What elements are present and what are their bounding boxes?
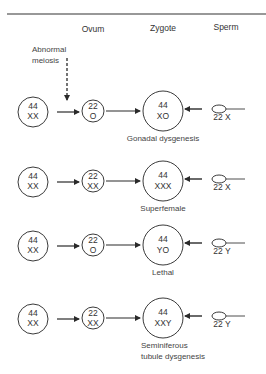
- cross-row: 44XX22XX44XXY22 YSeminiferoustubule dysg…: [18, 298, 245, 361]
- parent-autosomes: 44: [28, 101, 38, 111]
- parent-sex-chromosomes: XX: [27, 181, 39, 191]
- ovum-autosomes: 22: [88, 308, 98, 318]
- header-zygote: Zygote: [150, 23, 176, 33]
- ovum-autosomes: 22: [88, 171, 98, 181]
- outcome-label: tubule dysgenesis: [141, 352, 205, 361]
- ovum-autosomes: 22: [88, 101, 98, 111]
- zygote-sex-chromosomes: XXY: [154, 318, 171, 328]
- ovum-sex-chromosomes: XX: [87, 318, 99, 328]
- parent-sex-chromosomes: XX: [27, 318, 39, 328]
- parent-sex-chromosomes: XX: [27, 111, 39, 121]
- nondisjunction-diagram: Ovum Zygote Sperm Abnormal meiosis 44XX2…: [0, 0, 266, 374]
- sperm-karyotype: 22 X: [213, 112, 231, 122]
- ovum-sex-chromosomes: O: [90, 111, 97, 121]
- cross-row: 44XX22O44YO22 YLethal: [18, 225, 245, 277]
- header-ovum: Ovum: [82, 24, 105, 34]
- annotation-abnormal: Abnormal: [32, 45, 66, 54]
- sperm-karyotype: 22 Y: [213, 319, 231, 329]
- ovum-sex-chromosomes: O: [90, 245, 97, 255]
- annotation-meiosis: meiosis: [32, 56, 59, 65]
- zygote-autosomes: 44: [158, 307, 168, 317]
- parent-autosomes: 44: [28, 308, 38, 318]
- zygote-autosomes: 44: [158, 234, 168, 244]
- zygote-sex-chromosomes: XXX: [154, 181, 171, 191]
- outcome-label: Gonadal dysgenesis: [127, 134, 200, 143]
- zygote-sex-chromosomes: YO: [157, 245, 170, 255]
- parent-autosomes: 44: [28, 171, 38, 181]
- parent-autosomes: 44: [28, 235, 38, 245]
- zygote-autosomes: 44: [158, 100, 168, 110]
- zygote-sex-chromosomes: XO: [157, 111, 170, 121]
- outcome-label: Superfemale: [140, 204, 186, 213]
- sperm-karyotype: 22 X: [213, 182, 231, 192]
- ovum-sex-chromosomes: XX: [87, 181, 99, 191]
- outcome-label: Lethal: [152, 268, 174, 277]
- cross-row: 44XX22O44XO22 XGonadal dysgenesis: [18, 91, 245, 143]
- header-sperm: Sperm: [213, 22, 238, 32]
- parent-sex-chromosomes: XX: [27, 245, 39, 255]
- zygote-autosomes: 44: [158, 170, 168, 180]
- ovum-autosomes: 22: [88, 235, 98, 245]
- cross-row: 44XX22XX44XXX22 XSuperfemale: [18, 161, 245, 213]
- sperm-karyotype: 22 Y: [213, 246, 231, 256]
- outcome-label: Seminiferous: [141, 341, 188, 350]
